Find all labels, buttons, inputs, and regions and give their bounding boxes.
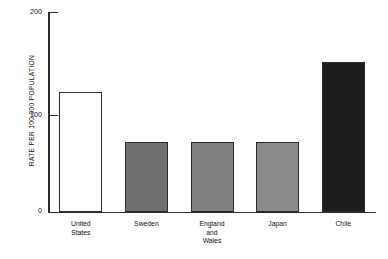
bar-united-states [59,92,102,212]
bar-chile [322,62,365,212]
x-label-japan: Japan [245,220,311,229]
x-label-sweden: Sweden [114,220,180,229]
x-label-england-and-wales: EnglandandWales [179,220,245,246]
bar-japan [256,142,299,212]
y-tick-label-100: 100 [6,110,42,119]
y-tick-label-0: 0 [6,206,42,215]
x-label-chile: Chile [310,220,376,229]
bar-england-and-wales [191,142,234,212]
x-label-united-states: UnitedStates [48,220,114,237]
bar-chart: RATE PER 100,000 POPULATION 200 100 0 Un… [0,0,388,259]
bar-sweden [125,142,168,212]
plot-area [48,12,376,212]
y-tick-label-200: 200 [6,7,42,16]
